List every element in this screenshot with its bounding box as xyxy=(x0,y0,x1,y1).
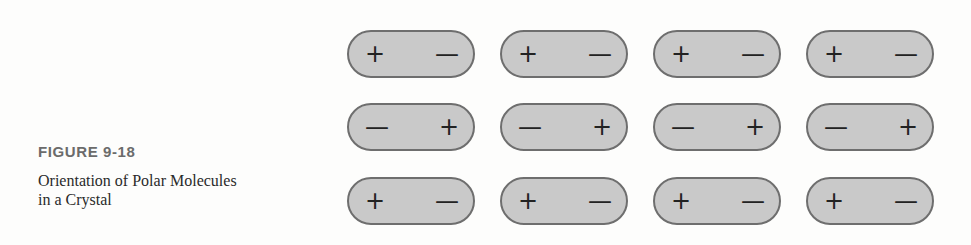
positive-pole-icon: + xyxy=(365,39,385,69)
polar-molecule: + — xyxy=(806,30,934,78)
negative-pole-icon: — xyxy=(741,39,765,69)
positive-pole-icon: + xyxy=(592,112,612,142)
negative-pole-icon: — xyxy=(588,39,612,69)
polar-molecule: + — xyxy=(500,177,628,225)
negative-pole-icon: — xyxy=(588,186,612,216)
positive-pole-icon: + xyxy=(671,186,691,216)
polar-molecule: — + xyxy=(653,103,781,151)
negative-pole-icon: — xyxy=(824,112,848,142)
polar-molecule: — + xyxy=(500,103,628,151)
positive-pole-icon: + xyxy=(898,112,918,142)
positive-pole-icon: + xyxy=(518,186,538,216)
negative-pole-icon: — xyxy=(741,186,765,216)
negative-pole-icon: — xyxy=(518,112,542,142)
polar-molecule: + — xyxy=(806,177,934,225)
polar-molecule: + — xyxy=(653,30,781,78)
polar-molecule: + — xyxy=(500,30,628,78)
polar-molecule: + — xyxy=(347,177,475,225)
positive-pole-icon: + xyxy=(518,39,538,69)
polar-molecule: + — xyxy=(653,177,781,225)
negative-pole-icon: — xyxy=(671,112,695,142)
figure-caption: FIGURE 9-18 Orientation of Polar Molecul… xyxy=(38,143,318,209)
figure-title-line-1: Orientation of Polar Molecules xyxy=(38,172,237,189)
positive-pole-icon: + xyxy=(671,39,691,69)
negative-pole-icon: — xyxy=(894,186,918,216)
negative-pole-icon: — xyxy=(365,112,389,142)
polar-molecule: — + xyxy=(806,103,934,151)
negative-pole-icon: — xyxy=(435,39,459,69)
figure-title-line-2: in a Crystal xyxy=(38,191,112,208)
positive-pole-icon: + xyxy=(439,112,459,142)
positive-pole-icon: + xyxy=(365,186,385,216)
polar-molecule: + — xyxy=(347,30,475,78)
positive-pole-icon: + xyxy=(824,39,844,69)
figure-title: Orientation of Polar Molecules in a Crys… xyxy=(38,171,318,209)
positive-pole-icon: + xyxy=(745,112,765,142)
polar-molecule: — + xyxy=(347,103,475,151)
positive-pole-icon: + xyxy=(824,186,844,216)
negative-pole-icon: — xyxy=(894,39,918,69)
negative-pole-icon: — xyxy=(435,186,459,216)
figure-label: FIGURE 9-18 xyxy=(38,143,318,161)
